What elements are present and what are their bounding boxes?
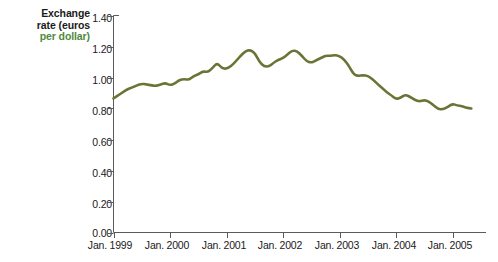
y-axis-ticks [108,17,114,234]
x-axis-ticks [115,233,454,239]
axis-lines [114,16,487,233]
chart-figure: Exchange rate (euros per dollar) 1.40 1.… [0,0,498,262]
exchange-rate-line [114,50,472,109]
plot-area [0,0,498,262]
